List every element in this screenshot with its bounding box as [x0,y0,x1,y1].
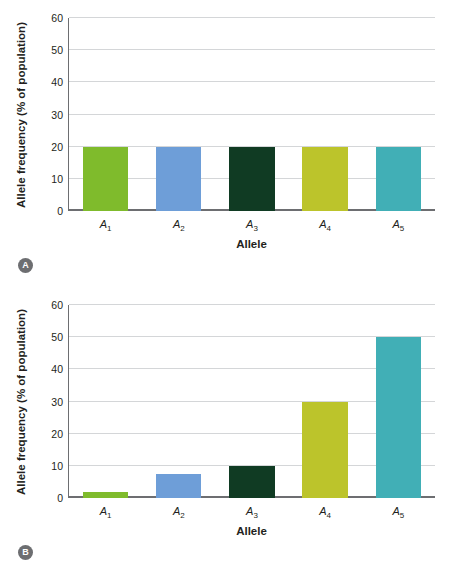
x-tick-label-subscript: 4 [327,224,331,233]
y-tick-label: 30 [51,109,63,121]
y-tick-label: 10 [51,460,63,472]
x-tick-label: A2 [173,218,185,233]
bar-a5[interactable] [376,147,421,211]
bar-a4[interactable] [302,402,347,499]
panel-badge-b: B [18,545,33,560]
x-tick-label: A4 [319,505,331,520]
y-tick-label: 50 [51,44,63,56]
y-tick-label: 30 [51,396,63,408]
y-tick-label: 40 [51,363,63,375]
bar-slot: A1 [69,305,142,498]
chart-panel-a: Allele frequency (% of population)010203… [0,0,457,287]
x-tick-label: A3 [246,218,258,233]
plot-canvas: 0102030405060A1A2A3A4A5 [68,18,435,211]
bar-group: A1A2A3A4A5 [69,305,435,498]
bar-slot: A4 [289,18,362,211]
bar-slot: A5 [362,18,435,211]
chart-panel-b: Allele frequency (% of population)010203… [0,287,457,574]
bar-slot: A2 [142,18,215,211]
plot-canvas: 0102030405060A1A2A3A4A5 [68,305,435,498]
x-tick-label: A5 [392,218,404,233]
bar-a4[interactable] [302,147,347,211]
bar-group: A1A2A3A4A5 [69,18,435,211]
y-axis-title: Allele frequency (% of population) [12,305,30,498]
bar-a2[interactable] [156,474,201,498]
bar-a2[interactable] [156,147,201,211]
x-axis-title: Allele [68,238,435,250]
x-tick-label-subscript: 4 [327,511,331,520]
y-tick-label: 10 [51,173,63,185]
x-tick-label-subscript: 2 [180,224,184,233]
panel-badge-a: A [18,258,33,273]
x-axis-title: Allele [68,525,435,537]
bar-slot: A3 [215,305,288,498]
x-tick-label-subscript: 5 [400,511,404,520]
x-tick-label-subscript: 2 [180,511,184,520]
x-tick-label-subscript: 1 [107,511,111,520]
bar-a1[interactable] [83,492,128,498]
plot-area: 0102030405060A1A2A3A4A5 [68,18,435,211]
bar-slot: A2 [142,305,215,498]
y-axis-title: Allele frequency (% of population) [12,18,30,211]
y-tick-label: 20 [51,428,63,440]
y-tick-label: 60 [51,299,63,311]
x-tick-label: A2 [173,505,185,520]
bar-slot: A3 [215,18,288,211]
bar-a3[interactable] [229,147,274,211]
y-axis-title-text: Allele frequency (% of population) [15,309,27,495]
bar-a1[interactable] [83,147,128,211]
x-tick-label-subscript: 5 [400,224,404,233]
x-tick-label: A5 [392,505,404,520]
bar-a5[interactable] [376,337,421,498]
y-axis-title-text: Allele frequency (% of population) [15,22,27,208]
figure-root: Allele frequency (% of population)010203… [0,0,457,574]
bar-slot: A4 [289,305,362,498]
x-tick-label-subscript: 1 [107,224,111,233]
bar-slot: A5 [362,305,435,498]
y-tick-label: 0 [57,205,63,217]
x-tick-label: A4 [319,218,331,233]
bar-a3[interactable] [229,466,274,498]
x-tick-label-subscript: 3 [253,224,257,233]
plot-area: 0102030405060A1A2A3A4A5 [68,305,435,498]
bar-slot: A1 [69,18,142,211]
y-tick-label: 60 [51,12,63,24]
x-tick-label: A3 [246,505,258,520]
x-tick-label-subscript: 3 [253,511,257,520]
y-tick-label: 50 [51,331,63,343]
y-tick-label: 0 [57,492,63,504]
x-tick-label: A1 [100,505,112,520]
y-tick-label: 20 [51,141,63,153]
y-tick-label: 40 [51,76,63,88]
x-tick-label: A1 [100,218,112,233]
